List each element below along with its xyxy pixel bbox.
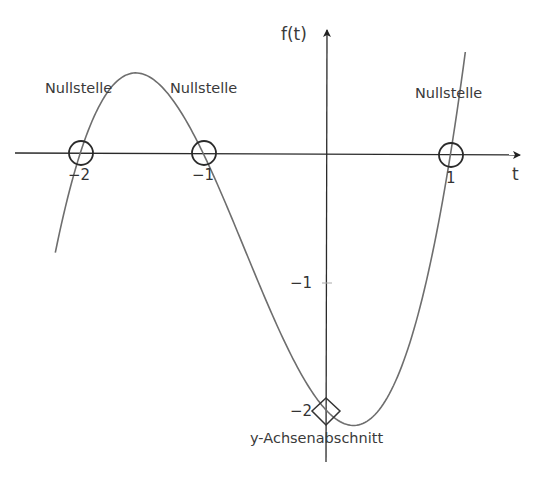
x-tick-label-plus-1: 1 <box>446 169 456 187</box>
function-curve <box>55 52 465 425</box>
root-label-2: Nullstelle <box>170 80 237 96</box>
x-tick-label-minus-2: −2 <box>68 166 90 184</box>
function-plot: f(t) t Nullstelle Nullstelle Nullstelle … <box>0 0 534 479</box>
root-label-3: Nullstelle <box>415 85 482 101</box>
root-marker-minus-1 <box>192 141 216 165</box>
x-tick-label-minus-1: −1 <box>192 166 214 184</box>
y-intercept-label: y-Achsenabschnitt <box>250 430 383 446</box>
root-label-1: Nullstelle <box>45 80 112 96</box>
x-axis-label: t <box>512 164 519 184</box>
x-axis <box>15 153 520 155</box>
y-tick-label-minus-1: −1 <box>290 274 312 292</box>
y-axis-label: f(t) <box>281 24 307 44</box>
y-tick-label-minus-2: −2 <box>290 402 312 420</box>
